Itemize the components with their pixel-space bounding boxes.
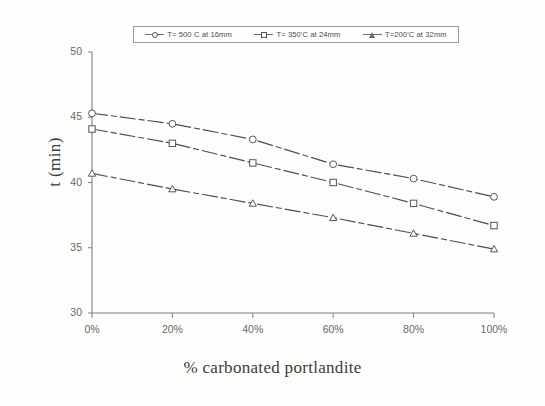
data-point-marker xyxy=(250,160,256,166)
data-point-marker xyxy=(491,222,497,228)
data-point-marker xyxy=(169,120,176,127)
data-point-marker xyxy=(410,230,417,236)
y-tick-label: 50 xyxy=(48,45,82,57)
x-tick-label: 100% xyxy=(470,323,518,335)
x-axis-title: % carbonated portlandite xyxy=(0,358,545,378)
plot-area xyxy=(0,0,545,406)
data-point-marker xyxy=(330,179,336,185)
y-axis-title: t (min) xyxy=(45,102,65,222)
data-point-marker xyxy=(249,136,256,143)
data-point-marker xyxy=(89,110,96,117)
data-point-marker xyxy=(330,161,337,168)
data-point-marker xyxy=(169,140,175,146)
x-tick-label: 60% xyxy=(309,323,357,335)
data-point-marker xyxy=(491,193,498,200)
data-point-marker xyxy=(89,126,95,132)
series-layer xyxy=(88,110,497,252)
y-tick-label: 30 xyxy=(48,306,82,318)
series-3 xyxy=(88,170,497,252)
x-axis-ticks xyxy=(92,313,494,318)
data-point-marker xyxy=(88,170,95,176)
data-point-marker xyxy=(410,200,416,206)
series-2 xyxy=(89,126,497,229)
y-axis-ticks xyxy=(88,52,92,313)
x-tick-label: 40% xyxy=(229,323,277,335)
x-tick-label: 80% xyxy=(390,323,438,335)
series-1 xyxy=(89,110,498,200)
data-point-marker xyxy=(330,214,337,220)
y-tick-label: 35 xyxy=(48,241,82,253)
chart-figure: T= 500 C at 16mm T= 350'C at 24mm T=200'… xyxy=(0,0,545,406)
x-tick-label: 0% xyxy=(68,323,116,335)
x-tick-label: 20% xyxy=(148,323,196,335)
data-point-marker xyxy=(410,175,417,182)
